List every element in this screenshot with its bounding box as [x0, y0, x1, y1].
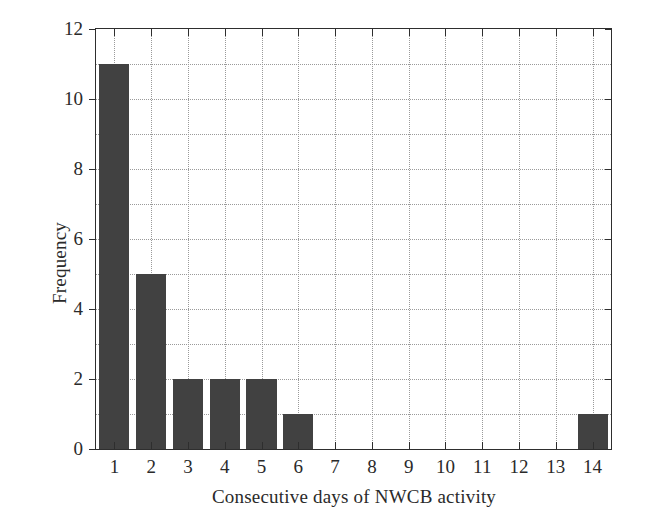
x-tick-mark	[372, 442, 373, 449]
x-tick-mark	[556, 442, 557, 449]
y-tick-label: 8	[21, 158, 83, 180]
x-tick-mark	[335, 442, 336, 449]
y-tick-mark-right	[605, 239, 611, 240]
x-tick-mark	[593, 442, 594, 449]
bar	[99, 64, 129, 449]
y-tick-mark	[89, 99, 96, 100]
x-tick-mark	[114, 442, 115, 449]
y-tick-label: 0	[21, 438, 83, 460]
y-tick-mark-right	[605, 379, 611, 380]
x-tick-mark-top	[151, 29, 152, 36]
gridline-horizontal	[96, 99, 611, 100]
x-tick-mark	[445, 442, 446, 449]
histogram-figure: Frequency Consecutive days of NWCB activ…	[0, 0, 647, 526]
gridline-horizontal	[96, 239, 611, 240]
x-tick-label: 14	[563, 456, 623, 478]
gridline-vertical	[556, 29, 557, 449]
x-tick-mark-top	[556, 29, 557, 36]
x-tick-mark-top	[335, 29, 336, 36]
x-tick-mark-top	[445, 29, 446, 36]
gridline-vertical	[445, 29, 446, 449]
x-tick-mark-top	[519, 29, 520, 36]
bar	[136, 274, 166, 449]
x-tick-mark	[151, 442, 152, 449]
y-tick-mark-right	[605, 169, 611, 170]
y-tick-label: 4	[21, 298, 83, 320]
y-tick-label: 10	[21, 88, 83, 110]
gridline-horizontal	[96, 134, 611, 135]
x-tick-mark	[262, 442, 263, 449]
x-tick-mark-top	[298, 29, 299, 36]
y-tick-mark	[89, 309, 96, 310]
bar	[246, 379, 276, 449]
plot-area	[95, 28, 612, 450]
y-tick-label: 2	[21, 368, 83, 390]
bar	[210, 379, 240, 449]
x-tick-mark-top	[188, 29, 189, 36]
x-tick-mark-top	[225, 29, 226, 36]
gridline-vertical	[372, 29, 373, 449]
x-tick-mark	[409, 442, 410, 449]
gridline-vertical	[593, 29, 594, 449]
gridline-horizontal	[96, 204, 611, 205]
gridline-vertical	[519, 29, 520, 449]
x-tick-mark-top	[114, 29, 115, 36]
gridline-vertical	[335, 29, 336, 449]
x-tick-mark-top	[409, 29, 410, 36]
y-tick-mark	[89, 449, 96, 450]
x-tick-mark-top	[372, 29, 373, 36]
y-tick-mark	[89, 239, 96, 240]
x-tick-mark-top	[262, 29, 263, 36]
y-tick-mark-right	[605, 99, 611, 100]
x-tick-mark	[482, 442, 483, 449]
x-tick-mark-top	[482, 29, 483, 36]
gridline-horizontal	[96, 64, 611, 65]
gridline-horizontal	[96, 169, 611, 170]
y-tick-mark	[89, 29, 96, 30]
gridline-vertical	[298, 29, 299, 449]
gridline-vertical	[409, 29, 410, 449]
gridline-horizontal	[96, 274, 611, 275]
y-tick-label: 6	[21, 228, 83, 250]
y-tick-label: 12	[21, 18, 83, 40]
y-tick-mark-right	[605, 309, 611, 310]
x-tick-mark-top	[593, 29, 594, 36]
y-tick-mark	[89, 169, 96, 170]
bar	[173, 379, 203, 449]
x-tick-mark	[225, 442, 226, 449]
x-tick-mark	[519, 442, 520, 449]
x-tick-mark	[188, 442, 189, 449]
y-tick-mark	[89, 379, 96, 380]
y-tick-mark-right	[605, 29, 611, 30]
gridline-vertical	[482, 29, 483, 449]
y-tick-mark-right	[605, 449, 611, 450]
gridline-horizontal	[96, 344, 611, 345]
gridline-horizontal	[96, 309, 611, 310]
x-axis-title: Consecutive days of NWCB activity	[95, 486, 613, 508]
plot-inner	[96, 29, 611, 449]
x-tick-mark	[298, 442, 299, 449]
